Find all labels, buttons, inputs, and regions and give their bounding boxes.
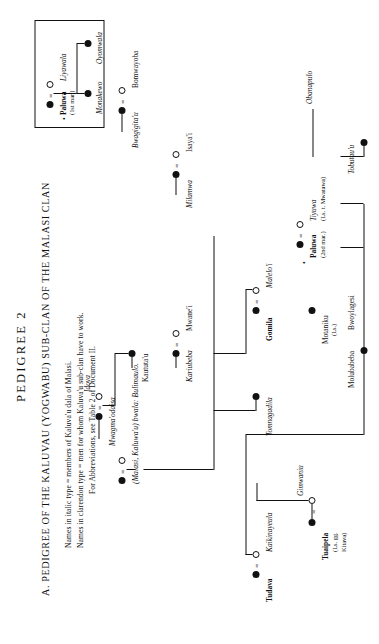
label-maleloi: Malelo'i [265, 263, 273, 288]
label-paluwa1-note: (1st mar.) [68, 91, 75, 116]
descent-line [340, 247, 363, 248]
descent-line [213, 410, 255, 411]
descent-line [102, 405, 114, 406]
descent-line [340, 156, 363, 157]
label-tobutauu: Tobutau'u [347, 145, 355, 174]
page-subtitle: A. PEDIGREE OF THE KALUVAU (YOGWABU) SUB… [40, 182, 51, 596]
bullet-paluwa2: • [300, 261, 308, 264]
person-symbol-male-gomila [252, 307, 259, 314]
sibling-bar [312, 109, 313, 157]
label-oyomwala: Oyomwala [95, 32, 103, 64]
descent-line [126, 469, 135, 470]
label-milamwa: Milamwa [185, 180, 193, 208]
sibling-bar [76, 44, 77, 94]
person-symbol-male-kaututau [128, 350, 135, 357]
bullet-paluwa1: • [60, 117, 68, 120]
legend-line-2: Names in clarendon type = men for whom K… [76, 312, 84, 548]
label-idoya: Idoya [83, 375, 91, 392]
person-symbol-female-liyawala [46, 81, 53, 88]
person-symbol-female-isayai [172, 151, 179, 158]
link-line [98, 420, 99, 439]
descent-line [143, 469, 213, 470]
person-symbol-female-idoya [95, 393, 102, 400]
link-line [175, 357, 176, 368]
descent-line [340, 203, 363, 204]
label-tomnagadila: Tomnagadila [265, 397, 273, 436]
person-symbol-female-tiyuwa [296, 221, 303, 228]
marriage-symbol: = [253, 299, 261, 304]
label-motaniku-abbr: (Ls.) [330, 324, 337, 336]
marriage-symbol: = [253, 563, 261, 568]
label-kariubeba: Kariubeba [185, 350, 193, 382]
person-symbol-male-kariubeba [172, 350, 179, 357]
person-symbol-female-apex [118, 457, 125, 464]
person-symbol-male-tobutauu [360, 139, 367, 146]
sibling-bar [245, 290, 246, 354]
sibling-bar [363, 204, 364, 354]
link-line [121, 114, 122, 132]
descent-line [76, 93, 84, 94]
label-monakewo: Monakewo [95, 82, 103, 114]
page-title: PEDIGREE 2 [14, 310, 27, 402]
person-symbol-male-motaniku [308, 307, 315, 314]
person-symbol-female-maleloi [252, 287, 259, 294]
person-symbol-male-tudava [252, 571, 259, 578]
pedigree-chart-stage: PEDIGREE 2 A. PEDIGREE OF THE KALUVAU (Y… [0, 0, 379, 644]
label-mwanei: Mwane'i [185, 305, 193, 331]
marriage-symbol-apex: = [119, 469, 127, 474]
descent-line [213, 353, 245, 354]
label-bwoylagesi: Bwoylagesi [347, 295, 355, 330]
person-symbol-male-tomnagadila [252, 393, 259, 400]
label-bomwayoba: Bomwayoba [131, 51, 139, 88]
descent-line [363, 354, 364, 435]
legend-line-1: Names in italic type = members of Kaluva… [64, 361, 72, 548]
person-symbol-male-bwagigitau [118, 107, 125, 114]
label-tuaipela-abbr2: Kitava) [340, 533, 347, 552]
sibling-bar [245, 435, 246, 555]
apex-bwala-note: (Malasi, Kaluwa'u) bwala: Bulimaulo. [131, 363, 139, 484]
marriage-symbol: = [173, 342, 181, 347]
label-molubabeba: Molubabeba [347, 351, 355, 388]
label-motaniku: Motaniku [321, 315, 329, 344]
marriage-symbol: = [119, 99, 127, 104]
label-kaututau: Kaututa'u [141, 354, 149, 382]
descent-line [53, 93, 63, 94]
marriage-symbol: = [47, 93, 55, 98]
label-tiyuwa: Tiyuwa [309, 200, 317, 221]
descent-line [256, 500, 308, 501]
label-tuaipela: Tuaipela [321, 533, 329, 560]
label-paluwa2-note: (2nd mar.) [319, 231, 326, 258]
marriage-symbol: = [96, 405, 104, 410]
person-symbol-male-apex [118, 477, 125, 484]
descent-line [63, 93, 76, 94]
label-paluwa2: Paluwa [309, 235, 317, 258]
label-liyawala: Liyawala [59, 53, 67, 81]
descent-line [245, 434, 363, 435]
label-gomila: Gomila [265, 318, 273, 341]
descent-line [76, 43, 84, 44]
label-tudava: Tudava [265, 578, 273, 602]
marriage-symbol: = [173, 163, 181, 168]
person-symbol-female-kaikinayeula [252, 551, 259, 558]
descent-line [114, 353, 128, 354]
sibling-bar [114, 354, 115, 406]
person-symbol-male-milamwa [172, 171, 179, 178]
person-symbol-male-tuaipela [308, 519, 315, 526]
person-symbol-male-oyomwala [84, 40, 91, 47]
label-isayai: Isaya'i [185, 133, 193, 152]
label-obanapulo: Obanapulo [305, 71, 313, 104]
link-line [131, 357, 132, 368]
label-bwagigitau: Bwagigita'u [131, 112, 139, 148]
marriage-symbol: = [297, 233, 305, 238]
label-kaikinayeula: Kaikinayeula [265, 513, 273, 552]
person-symbol-male-paluwa1 [46, 101, 53, 108]
link-line [175, 178, 176, 195]
person-symbol-female-mwanei [172, 330, 179, 337]
label-tuaipela-abbr1: (Ls. gg. [331, 532, 338, 552]
person-symbol-female-gimwaniu [308, 497, 315, 504]
link-line [256, 483, 257, 501]
person-symbol-male-mwagmaodaisa [95, 413, 102, 420]
link-line [311, 504, 312, 519]
person-symbol-male-monakewo [84, 90, 91, 97]
label-gimwaniu: Gimwaniu [296, 465, 304, 496]
